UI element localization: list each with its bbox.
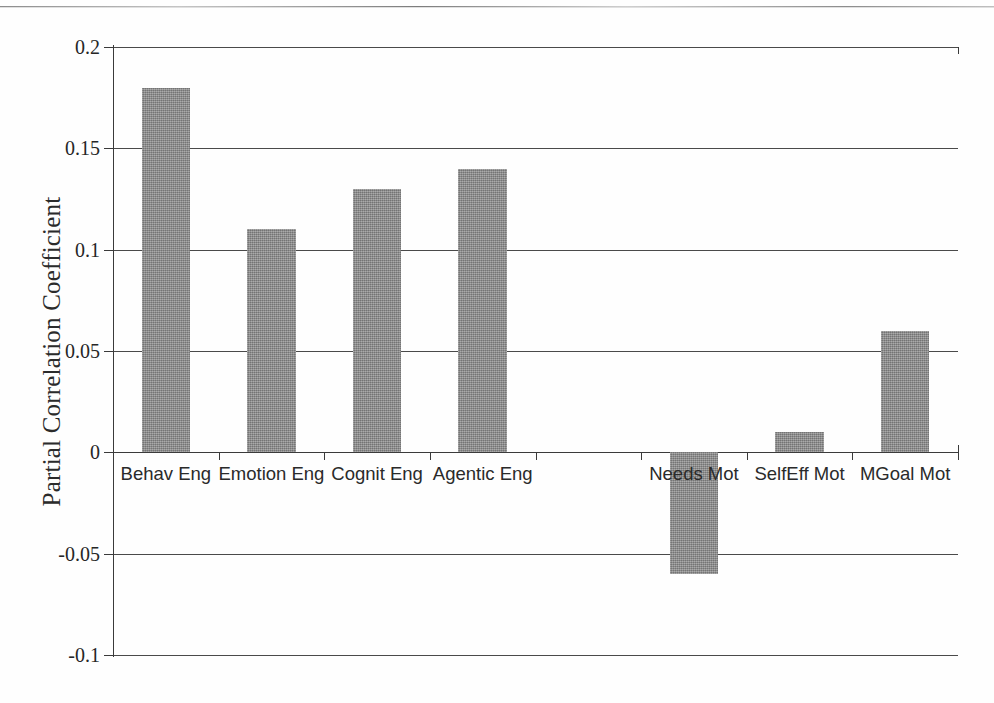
bar-behav-eng — [142, 88, 191, 453]
axis-edge-cap — [958, 445, 959, 452]
x-tick-mark — [852, 452, 853, 460]
y-tick-mark — [104, 47, 114, 48]
y-tick-label: 0.15 — [65, 137, 100, 160]
x-tick-label: Agentic Eng — [433, 463, 533, 485]
x-tick-label: Needs Mot — [649, 463, 738, 485]
x-tick-mark — [641, 452, 642, 460]
x-tick-label: Behav Eng — [121, 463, 212, 485]
gridline-0.2 — [113, 47, 958, 48]
x-tick-label: SelfEff Mot — [754, 463, 844, 485]
gridline--0.05 — [113, 554, 958, 555]
gridline-0.05 — [113, 351, 958, 352]
y-tick-mark — [104, 148, 114, 149]
x-tick-mark — [747, 452, 748, 460]
axis-edge-cap — [958, 47, 959, 54]
x-tick-mark — [958, 452, 959, 460]
bar-selfeff-mot — [775, 432, 824, 452]
bar-emotion-eng — [247, 229, 296, 452]
bar-mgoal-mot — [881, 331, 930, 453]
x-tick-label: MGoal Mot — [860, 463, 950, 485]
x-tick-label: Cognit Eng — [331, 463, 423, 485]
x-tick-label: Emotion Eng — [218, 463, 324, 485]
x-tick-mark — [219, 452, 220, 460]
scan-artifact-line-secondary — [0, 7, 994, 8]
y-tick-mark — [104, 452, 114, 453]
y-tick-mark — [104, 655, 114, 656]
y-tick-mark — [104, 554, 114, 555]
y-tick-mark — [104, 351, 114, 352]
x-tick-mark — [536, 452, 537, 460]
y-tick-label: 0 — [90, 441, 100, 464]
y-tick-label: 0.05 — [65, 340, 100, 363]
y-tick-label: -0.1 — [68, 644, 100, 667]
x-tick-mark — [324, 452, 325, 460]
gridline-0.15 — [113, 148, 958, 149]
y-tick-mark — [104, 250, 114, 251]
bar-agentic-eng — [458, 169, 507, 453]
chart-page: Partial Correlation Coefficient 0.20.150… — [0, 0, 994, 703]
plot-area: 0.20.150.10.050-0.05-0.1 Behav EngEmotio… — [113, 47, 958, 655]
bar-cognit-eng — [353, 189, 402, 452]
y-tick-label: 0.1 — [75, 238, 100, 261]
y-tick-label: -0.05 — [58, 542, 100, 565]
gridline--0.1 — [113, 655, 958, 656]
y-tick-label: 0.2 — [75, 36, 100, 59]
gridline-0.1 — [113, 250, 958, 251]
x-tick-mark — [430, 452, 431, 460]
